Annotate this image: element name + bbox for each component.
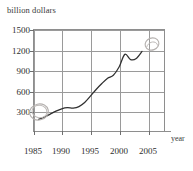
y-tick-300: 300 bbox=[4, 108, 30, 117]
y-tick-1500: 1500 bbox=[4, 26, 30, 35]
x-axis-label: year bbox=[171, 134, 185, 143]
y-tick-600: 600 bbox=[4, 88, 30, 97]
y-tick-1200: 1200 bbox=[4, 47, 30, 56]
x-axis-extension bbox=[165, 131, 171, 132]
line-chart: billion dollars 1500 1200 900 600 300 bbox=[0, 0, 193, 171]
data-line-series bbox=[33, 29, 165, 132]
x-tick-2005: 2005 bbox=[131, 147, 165, 156]
y-tick-900: 900 bbox=[4, 67, 30, 76]
